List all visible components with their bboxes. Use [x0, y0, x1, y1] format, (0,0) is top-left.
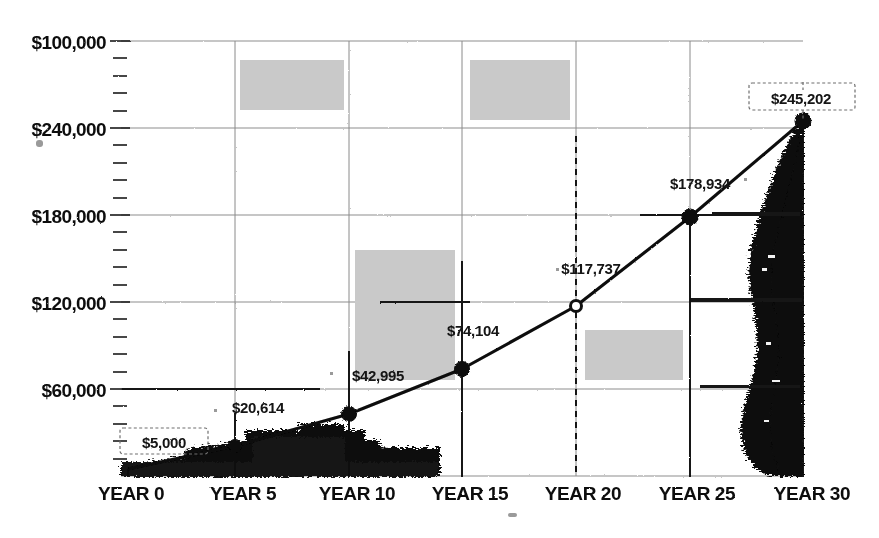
point-label-year-25: $178,934: [670, 175, 731, 192]
point-label-year-0: $5,000: [142, 434, 186, 451]
data-point-year-20: [571, 301, 582, 312]
point-label-year-30: $245,202: [771, 90, 831, 107]
chart-canvas: $100,000 $240,000 $180,000 $120,000 $60,…: [0, 0, 879, 538]
y-tick-label: $180,000: [32, 206, 106, 227]
x-tick-label: YEAR 25: [659, 483, 736, 504]
y-axis-labels: $100,000 $240,000 $180,000 $120,000 $60,…: [32, 32, 106, 401]
y-tick-label: $60,000: [42, 380, 107, 401]
y-tick-label: $100,000: [32, 32, 106, 53]
x-tick-label: YEAR 5: [210, 483, 277, 504]
chart-callout-boxes: [120, 82, 855, 454]
point-label-year-20: $117,737: [561, 260, 620, 277]
data-point-year-10: [342, 407, 357, 422]
y-tick-label: $120,000: [32, 293, 106, 314]
growth-chart: $100,000 $240,000 $180,000 $120,000 $60,…: [0, 0, 879, 538]
point-label-year-15: $74,104: [447, 322, 500, 339]
point-label-year-10: $42,995: [352, 367, 404, 384]
y-tick-label: $240,000: [32, 119, 106, 140]
chart-axes: [110, 38, 806, 479]
data-point-year-15: [455, 362, 470, 377]
x-tick-label: YEAR 15: [432, 483, 509, 504]
x-tick-label: YEAR 20: [545, 483, 621, 504]
x-tick-label: YEAR 30: [774, 483, 850, 504]
chart-point-labels: $5,000 $20,614 $42,995 $74,104 $117,737 …: [142, 90, 831, 451]
chart-markers: [229, 113, 812, 453]
data-point-year-25: [682, 209, 698, 225]
data-point-year-5: [229, 440, 242, 453]
x-tick-label: YEAR 0: [98, 483, 164, 504]
x-tick-label: YEAR 10: [319, 483, 395, 504]
chart-series-line: [128, 121, 803, 469]
point-label-year-5: $20,614: [232, 399, 285, 416]
x-axis-labels: YEAR 0 YEAR 5 YEAR 10 YEAR 15 YEAR 20 YE…: [98, 483, 850, 504]
